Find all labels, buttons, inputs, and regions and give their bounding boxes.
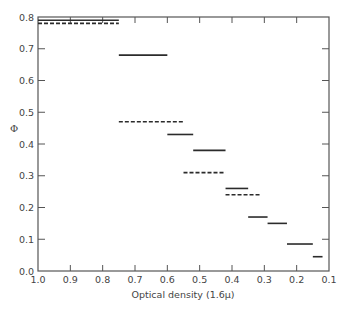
x-tick-label: 0.1 xyxy=(321,274,336,285)
chart: 1.00.90.80.70.60.50.40.30.20.1 0.00.10.2… xyxy=(0,0,347,310)
data-segments xyxy=(38,20,323,257)
x-tick-label: 0.9 xyxy=(63,274,78,285)
x-tick-label: 0.2 xyxy=(289,274,304,285)
x-tick-label: 0.5 xyxy=(192,274,207,285)
x-tick-label: 0.8 xyxy=(95,274,110,285)
y-axis-ticks: 0.00.10.20.30.40.50.60.70.8 xyxy=(19,12,329,277)
y-tick-label: 0.7 xyxy=(19,43,34,54)
y-tick-label: 0.4 xyxy=(19,139,34,150)
x-axis-title: Optical density (1.6μ) xyxy=(132,289,235,300)
y-axis-title: Φ xyxy=(10,123,18,134)
x-tick-label: 0.4 xyxy=(224,274,239,285)
x-tick-label: 0.6 xyxy=(160,274,175,285)
y-tick-label: 0.6 xyxy=(19,75,34,86)
y-tick-label: 0.0 xyxy=(19,266,34,277)
plot-frame xyxy=(38,17,329,271)
y-tick-label: 0.3 xyxy=(19,170,34,181)
y-tick-label: 0.5 xyxy=(19,107,34,118)
y-tick-label: 0.8 xyxy=(19,12,34,23)
x-tick-label: 0.7 xyxy=(127,274,142,285)
x-tick-label: 0.3 xyxy=(257,274,272,285)
y-tick-label: 0.2 xyxy=(19,202,34,213)
y-tick-label: 0.1 xyxy=(19,234,34,245)
